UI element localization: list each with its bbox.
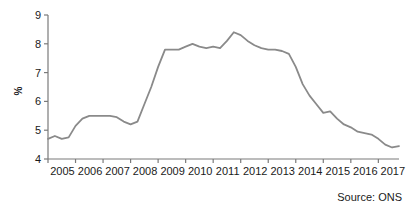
x-tick-label: 2015 [326, 165, 350, 177]
x-tick-label: 2005 [50, 165, 74, 177]
x-tick-label: 2007 [105, 165, 129, 177]
x-tick-label: 2010 [188, 165, 212, 177]
x-tick-label: 2011 [216, 165, 240, 177]
y-tick-label: 9 [35, 9, 41, 21]
y-axis-title: % [13, 86, 24, 95]
x-tick-label: 2014 [298, 165, 322, 177]
chart-canvas: 4567892005200620072008200920102011201220… [0, 0, 408, 206]
x-tick-label: 2016 [353, 165, 377, 177]
x-tick-label: 2008 [133, 165, 157, 177]
source-note: Source: ONS [337, 191, 402, 203]
x-tick-label: 2009 [160, 165, 184, 177]
x-tick-label: 2012 [243, 165, 267, 177]
y-tick-label: 8 [35, 38, 41, 50]
y-tick-label: 7 [35, 67, 41, 79]
y-tick-label: 4 [35, 153, 41, 165]
y-tick-label: 5 [35, 124, 41, 136]
data-series-line [48, 32, 399, 147]
unemployment-rate-chart: 4567892005200620072008200920102011201220… [0, 0, 408, 206]
x-tick-label: 2013 [270, 165, 294, 177]
x-tick-label: 2006 [78, 165, 102, 177]
y-tick-label: 6 [35, 95, 41, 107]
x-tick-label: 2017 [381, 165, 405, 177]
